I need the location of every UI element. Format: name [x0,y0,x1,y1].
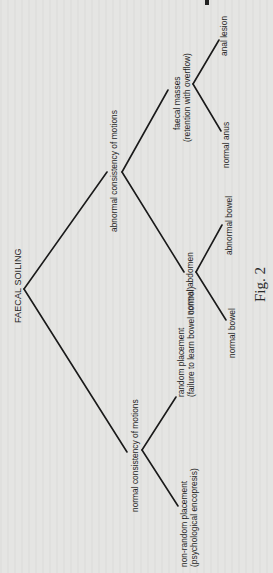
edge-normal-random [142,397,176,450]
figure-caption: Fig. 2 [252,267,269,302]
root-label: FAECAL SOILING [14,248,24,323]
leaf-normal-bowel: normal bowel [228,308,238,358]
edge-normal-nonrandom [142,450,178,506]
node-abnormal-consistency: abnormal consistency of motions [110,110,120,232]
edge-abdomen-abnormal-bowel [196,225,222,272]
random-placement-line2: (failure to learn bowel control) [187,287,197,397]
node-normal-consistency: normal consistency of motions [131,399,141,512]
edge-abnormal-faecal-masses [122,90,168,172]
edge-faecal-normal-anus [193,84,221,131]
leaf-anal-lesion: anal lesion [220,16,230,56]
non-random-line2: (psychological encopresis) [190,468,200,567]
leaf-normal-anus: normal anus [222,122,232,168]
edge-abnormal-normal-abdomen [122,172,184,272]
edge-faecal-anal-lesion [193,40,219,84]
edge-root-abnormal [24,172,107,289]
leaf-abnormal-bowel: abnormal bowel [225,196,235,255]
faecal-masses-line2: (retention with overflow) [183,53,193,142]
edge-root-normal [24,289,127,452]
edge-abdomen-normal-bowel [196,272,226,320]
